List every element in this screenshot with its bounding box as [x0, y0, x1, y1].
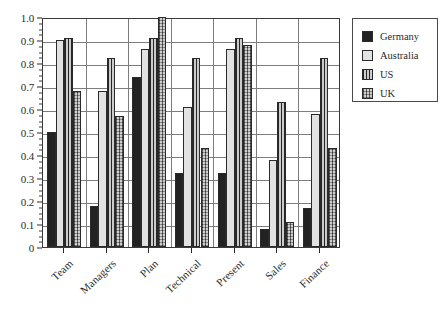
bar-group	[256, 19, 299, 247]
y-tick-label: 0.8	[21, 58, 34, 70]
bar-germany-managers	[90, 206, 99, 247]
bar-australia-present	[226, 49, 235, 247]
y-tick-label: 0.4	[21, 150, 34, 162]
x-tick	[106, 248, 107, 253]
x-tick	[63, 248, 64, 253]
bar-australia-managers	[98, 91, 107, 247]
x-tick	[234, 248, 235, 253]
legend-swatch-germany	[362, 31, 373, 42]
y-tick-label: 0.2	[21, 196, 34, 208]
bar-us-finance	[320, 58, 329, 247]
plot-area	[42, 18, 340, 248]
x-tick	[148, 248, 149, 253]
bar-uk-plan	[158, 17, 167, 247]
bar-australia-finance	[311, 114, 320, 247]
bar-uk-team	[73, 91, 82, 247]
bar-uk-technical	[201, 148, 210, 247]
bar-group	[171, 19, 214, 247]
legend-label-australia: Australia	[380, 50, 419, 61]
y-tick-label: 0.3	[21, 173, 34, 185]
x-tick-label-technical: Technical	[163, 257, 203, 295]
bar-germany-sales	[260, 229, 269, 247]
y-tick-label: 0.7	[21, 81, 34, 93]
y-tick-label: 0.6	[21, 104, 34, 116]
bar-us-present	[235, 38, 244, 247]
x-tick	[319, 248, 320, 253]
bar-germany-present	[218, 173, 227, 247]
bar-germany-technical	[175, 173, 184, 247]
legend-item: Australia	[362, 46, 437, 64]
bar-germany-plan	[132, 77, 141, 247]
y-tick-label: 0.9	[21, 35, 34, 47]
legend-item: US	[362, 65, 437, 83]
legend-label-germany: Germany	[380, 31, 419, 42]
bar-uk-present	[243, 45, 252, 247]
x-axis: TeamManagersPlanTechnicalPresentSalesFin…	[42, 248, 340, 314]
bar-group	[128, 19, 171, 247]
bar-australia-team	[56, 40, 65, 247]
bar-group	[298, 19, 341, 247]
bar-australia-technical	[183, 107, 192, 247]
legend-item: Germany	[362, 27, 437, 45]
legend-label-uk: UK	[380, 88, 395, 99]
y-tick-label: 0	[29, 242, 34, 254]
bar-germany-team	[47, 132, 56, 247]
y-tick-label: 0.5	[21, 127, 34, 139]
x-tick-label-sales: Sales	[263, 257, 289, 282]
bar-us-plan	[149, 38, 158, 247]
y-tick-label: 1.0	[21, 12, 34, 24]
bar-germany-finance	[303, 208, 312, 247]
legend-label-us: US	[380, 69, 393, 80]
legend-swatch-australia	[362, 50, 373, 61]
bar-us-sales	[277, 102, 286, 247]
chart-legend: Germany Australia US UK	[352, 18, 438, 102]
x-tick	[191, 248, 192, 253]
legend-item: UK	[362, 84, 437, 102]
bar-chart-figure: 1.00.90.80.70.60.50.40.30.20.10 TeamMana…	[0, 0, 447, 314]
x-tick-label-finance: Finance	[297, 257, 331, 290]
legend-swatch-us	[362, 69, 373, 80]
x-tick-label-managers: Managers	[78, 257, 118, 296]
bar-uk-managers	[115, 116, 124, 247]
bar-group	[43, 19, 86, 247]
x-tick-label-plan: Plan	[138, 257, 161, 279]
bar-australia-plan	[141, 49, 150, 247]
bar-us-technical	[192, 58, 201, 247]
bar-group	[86, 19, 129, 247]
legend-swatch-uk	[362, 88, 373, 99]
y-axis: 1.00.90.80.70.60.50.40.30.20.10	[0, 18, 42, 248]
x-tick-label-present: Present	[213, 257, 245, 288]
x-tick-label-team: Team	[49, 257, 75, 283]
bar-us-managers	[107, 58, 116, 247]
x-tick	[276, 248, 277, 253]
bar-us-team	[64, 38, 73, 247]
bar-group	[213, 19, 256, 247]
bar-uk-sales	[286, 222, 295, 247]
bar-australia-sales	[269, 160, 278, 247]
y-tick-label: 0.1	[21, 219, 34, 231]
bar-uk-finance	[328, 148, 337, 247]
